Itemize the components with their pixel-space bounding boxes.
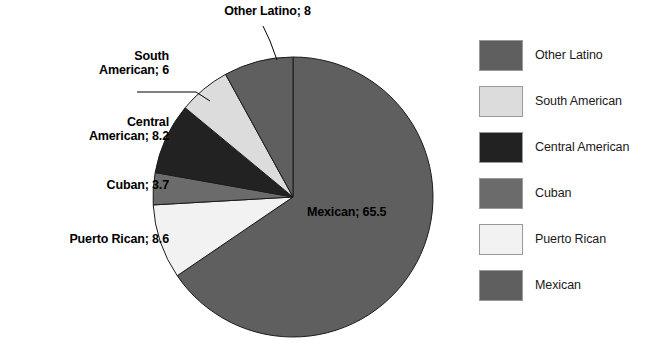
pie-chart-figure: Other Latino; 8 South American; 6 Centra… (0, 0, 661, 350)
legend-item-south-american[interactable]: South American (479, 78, 657, 124)
legend-item-puerto-rican[interactable]: Puerto Rican (479, 216, 657, 262)
legend-label: Other Latino (535, 48, 603, 62)
slice-label-other-latino: Other Latino; 8 (190, 4, 345, 18)
pie-slices-group (153, 57, 433, 337)
slice-label-puerto-rican: Puerto Rican; 8.6 (0, 232, 169, 246)
slice-label-central-american: Central American; 8.2 (20, 115, 169, 143)
legend-swatch-south-american (479, 86, 523, 117)
legend-item-mexican[interactable]: Mexican (479, 262, 657, 308)
legend-swatch-puerto-rican (479, 224, 523, 255)
legend-label: Cuban (535, 186, 571, 200)
legend-item-central-american[interactable]: Central American (479, 124, 657, 170)
leader-line-other-latino (263, 26, 277, 60)
slice-label-mexican: Mexican; 65.5 (307, 205, 386, 219)
legend-item-other-latino[interactable]: Other Latino (479, 32, 657, 78)
slice-label-south-american: South American; 6 (44, 49, 169, 77)
slice-label-cuban: Cuban; 3.7 (40, 178, 169, 192)
pie-chart-plot-area: Other Latino; 8 South American; 6 Centra… (0, 0, 470, 350)
legend-swatch-other-latino (479, 40, 523, 71)
legend-swatch-central-american (479, 132, 523, 163)
legend-swatch-cuban (479, 178, 523, 209)
legend-label: Mexican (535, 278, 581, 292)
legend-label: Puerto Rican (535, 232, 606, 246)
legend-label: South American (535, 94, 622, 108)
legend-swatch-mexican (479, 270, 523, 301)
chart-legend: Other LatinoSouth AmericanCentral Americ… (479, 32, 657, 308)
legend-label: Central American (535, 140, 629, 154)
legend-item-cuban[interactable]: Cuban (479, 170, 657, 216)
